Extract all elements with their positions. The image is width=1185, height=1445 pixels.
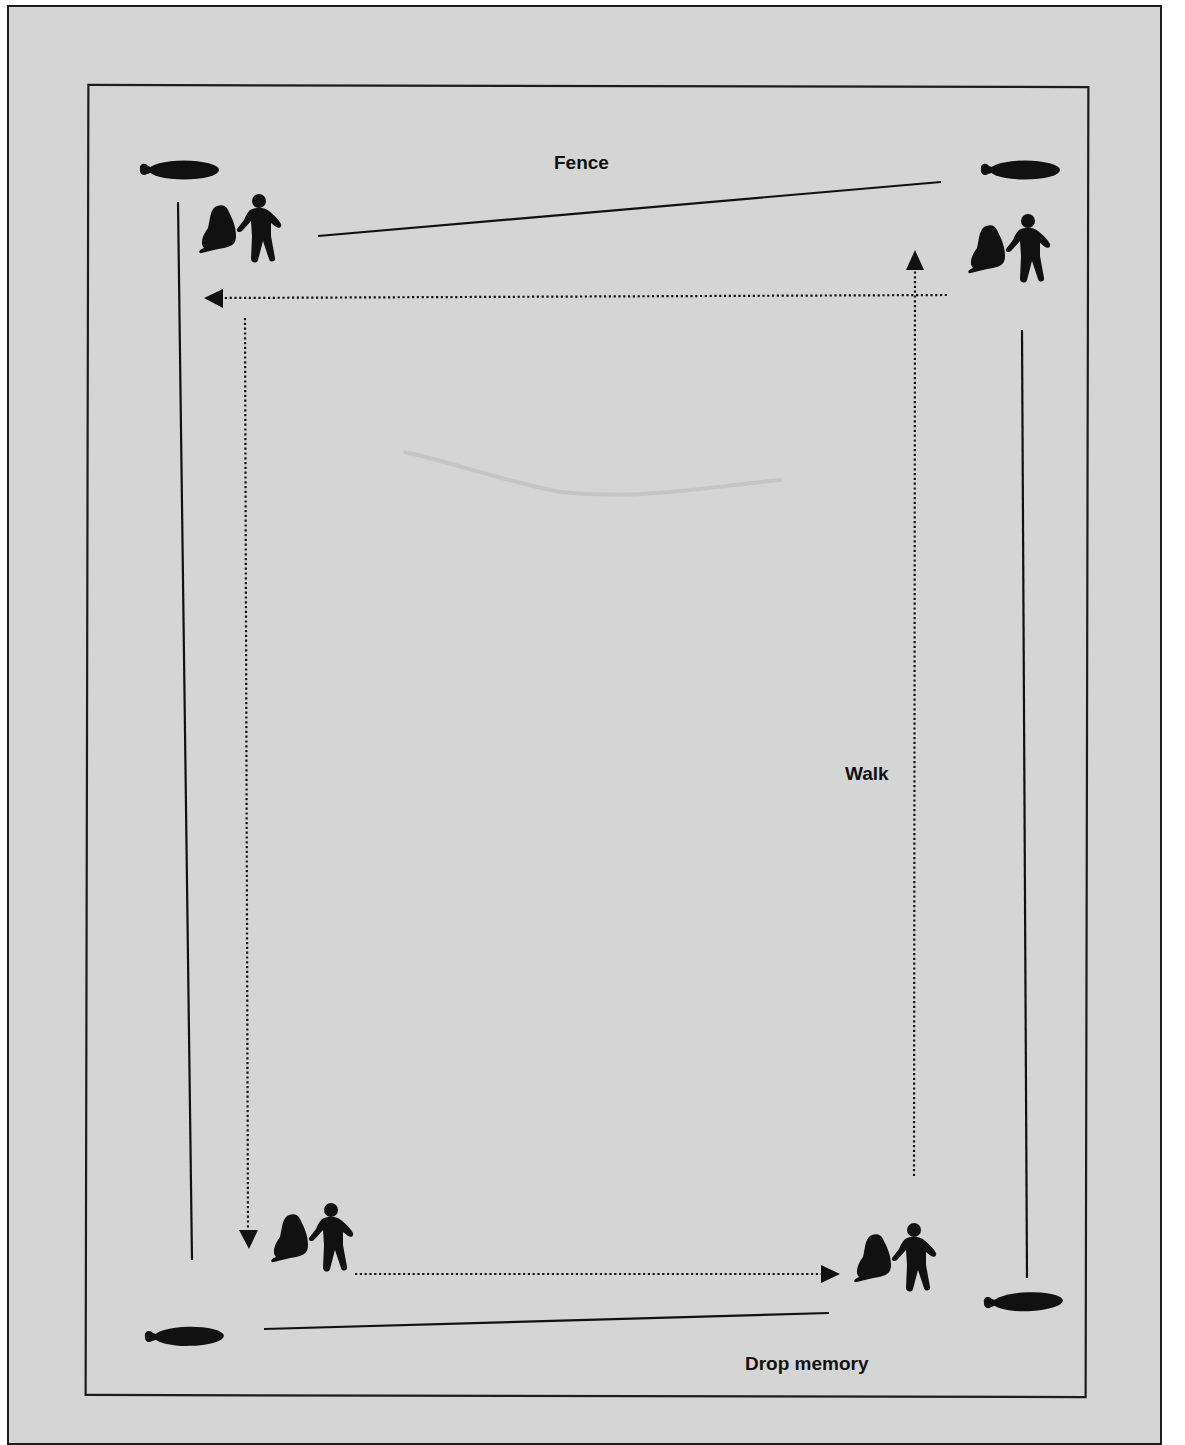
walk-segment-left bbox=[245, 318, 248, 1230]
bone-marker-icon bbox=[984, 1291, 1064, 1313]
arrow-right-icon bbox=[821, 1265, 840, 1283]
arrow-down-icon bbox=[239, 1230, 258, 1249]
fence-line-bottom bbox=[264, 1313, 829, 1329]
walker-figures bbox=[199, 194, 1050, 1292]
walk-path bbox=[204, 250, 947, 1283]
bone-marker-icon bbox=[981, 161, 1060, 180]
walk-segment-right bbox=[914, 270, 915, 1176]
corner-markers bbox=[140, 161, 1063, 1347]
fence-line-right bbox=[1022, 330, 1027, 1278]
walk-segment-top bbox=[222, 295, 947, 298]
person-with-dog-icon bbox=[968, 214, 1050, 283]
person-with-dog-icon bbox=[271, 1203, 353, 1272]
fence-lines bbox=[178, 182, 1027, 1329]
fence-label: Fence bbox=[554, 153, 609, 172]
bone-marker-icon bbox=[145, 1326, 224, 1346]
walk-label: Walk bbox=[845, 764, 889, 783]
person-with-dog-icon bbox=[854, 1223, 936, 1292]
fence-line-left bbox=[178, 202, 192, 1260]
person-with-dog-icon bbox=[199, 194, 281, 263]
arrow-left-icon bbox=[204, 289, 223, 308]
bone-marker-icon bbox=[140, 161, 219, 180]
faint-scan-mark bbox=[405, 452, 780, 495]
fence-line-top bbox=[318, 182, 941, 236]
inner-border bbox=[86, 85, 1089, 1397]
drop-memory-label: Drop memory bbox=[745, 1354, 869, 1373]
arrow-up-icon bbox=[906, 250, 924, 270]
